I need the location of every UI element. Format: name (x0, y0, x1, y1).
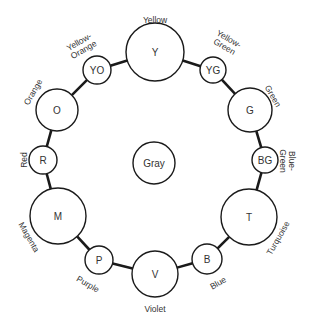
color-label-violet: Violet (144, 304, 166, 314)
color-node-magenta: M (30, 188, 86, 244)
color-node-violet: V (132, 251, 178, 297)
color-node-green: G (228, 88, 272, 132)
color-wheel-diagram: YYGGBGTBVPMROYOGray YellowYellow-GreenGr… (0, 0, 310, 318)
node-abbreviation: B (204, 254, 211, 265)
ring-connector (47, 130, 52, 146)
node-abbreviation: M (54, 211, 62, 222)
ring-connector (183, 61, 201, 67)
ring-connector (72, 80, 87, 95)
color-node-blue: B (192, 244, 222, 274)
color-label-blue: Blue (208, 274, 228, 291)
ring-connector (257, 173, 262, 191)
node-abbreviation: Gray (143, 158, 165, 169)
node-abbreviation: P (96, 255, 103, 266)
node-abbreviation: BG (258, 155, 273, 166)
color-node-turquoise: T (221, 189, 277, 245)
ring-connector (256, 131, 261, 147)
color-node-yellow-orange: YO (83, 56, 111, 84)
ring-connector (113, 263, 133, 268)
node-abbreviation: YG (206, 65, 221, 76)
node-abbreviation: Y (152, 47, 159, 58)
color-label-yellow: Yellow (143, 15, 168, 25)
color-node-yellow-green: YG (200, 57, 226, 83)
node-abbreviation: YO (90, 65, 105, 76)
color-node-gray: Gray (133, 142, 175, 184)
color-node-purple: P (85, 246, 113, 274)
color-label-yellow-green: Yellow-Green (210, 28, 243, 58)
ring-connector (47, 174, 51, 189)
node-abbreviation: R (39, 155, 46, 166)
color-node-blue-green: BG (252, 147, 278, 173)
ring-connector (77, 236, 89, 249)
node-abbreviation: T (246, 212, 252, 223)
node-abbreviation: V (152, 269, 159, 280)
color-label-purple: Purple (75, 274, 102, 295)
color-node-orange: O (36, 89, 78, 131)
ring-connector (110, 61, 127, 66)
ring-connector (177, 263, 192, 267)
color-label-red: Red (19, 152, 29, 168)
ring-connector (222, 80, 235, 94)
color-node-yellow: Y (126, 23, 184, 81)
color-label-blue-green: Blue-Green (278, 149, 297, 173)
color-node-red: R (29, 146, 57, 174)
node-abbreviation: O (53, 105, 61, 116)
ring-connector (218, 237, 230, 249)
color-nodes: YYGGBGTBVPMROYOGray (29, 23, 278, 297)
node-abbreviation: G (246, 105, 254, 116)
